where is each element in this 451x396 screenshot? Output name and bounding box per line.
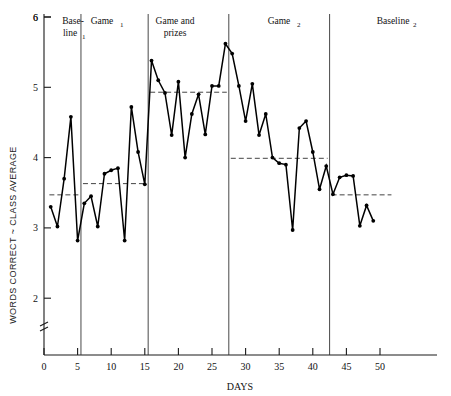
phase-label-game-and-prizes-line2: prizes	[164, 28, 187, 38]
phase-label-baseline-2: Baseline 2	[377, 16, 417, 29]
y-tick-label-2: 2	[33, 293, 38, 304]
y-axis-title: WORDS CORRECT ~ CLASS AVERAGE	[8, 146, 18, 324]
data-point	[365, 204, 369, 208]
phase-label-game-2: Game 2	[268, 16, 301, 29]
phase-label-game-and-prizes-line1: Game and	[156, 16, 195, 26]
data-point	[331, 192, 335, 196]
data-point	[156, 78, 160, 82]
data-point	[264, 112, 268, 116]
data-point	[291, 228, 295, 232]
data-point	[224, 42, 228, 46]
chart-container: 234566 05101520253035404550 WORDS CORREC…	[0, 0, 451, 396]
data-point	[96, 225, 100, 229]
data-series-line	[51, 44, 374, 241]
data-point	[183, 156, 187, 160]
data-point	[338, 175, 342, 179]
phase-label-game-1-main: Game	[91, 16, 114, 26]
data-point	[62, 177, 66, 181]
data-point	[190, 112, 194, 116]
data-point	[177, 80, 181, 84]
data-point	[371, 219, 375, 223]
x-tick-label-25: 25	[207, 361, 217, 372]
x-tick-label-40: 40	[308, 361, 318, 372]
data-point	[271, 156, 275, 160]
data-point	[143, 182, 147, 186]
phase-label-game-2-main: Game	[268, 16, 291, 26]
phase-label-baseline-2-sub: 2	[413, 21, 417, 29]
data-point	[304, 119, 308, 123]
data-point	[49, 205, 53, 209]
y-tick-label-4: 4	[33, 152, 38, 163]
x-tick-label-5: 5	[75, 361, 80, 372]
x-tick-label-0: 0	[42, 361, 47, 372]
data-point	[109, 168, 113, 172]
data-point	[69, 115, 73, 119]
data-point	[136, 150, 140, 154]
data-point	[351, 174, 355, 178]
x-tick-label-30: 30	[241, 361, 251, 372]
y-axis-ticks: 234566	[33, 12, 51, 304]
data-point	[76, 239, 80, 243]
x-tick-label-10: 10	[106, 361, 116, 372]
x-axis-ticks: 05101520253035404550	[42, 348, 386, 372]
data-point	[150, 59, 154, 63]
data-point	[244, 119, 248, 123]
phase-label-game-2-sub: 2	[297, 21, 301, 29]
data-point	[284, 163, 288, 167]
data-point	[345, 173, 349, 177]
x-tick-label-50: 50	[375, 361, 385, 372]
phase-divider-lines	[81, 14, 330, 355]
data-point	[56, 225, 60, 229]
data-point	[358, 224, 362, 228]
data-point	[123, 239, 127, 243]
line-chart: 234566 05101520253035404550 WORDS CORREC…	[0, 0, 451, 396]
data-point	[116, 166, 120, 170]
data-point	[210, 84, 214, 88]
phase-label-baseline-1-sub: 1	[82, 33, 86, 41]
data-point	[237, 84, 241, 88]
phase-label-baseline-1-line1: Base-	[62, 16, 84, 26]
data-point	[324, 164, 328, 168]
phase-label-game-1-sub: 1	[120, 21, 124, 29]
data-point	[82, 201, 86, 205]
y-tick-label-5: 5	[33, 82, 38, 93]
data-point-markers	[49, 42, 375, 243]
data-point	[103, 172, 107, 176]
phase-label-game-1: Game 1	[91, 16, 124, 29]
data-point	[197, 92, 201, 96]
data-point	[277, 161, 281, 165]
data-point	[318, 187, 322, 191]
data-point	[230, 52, 234, 56]
data-point	[217, 84, 221, 88]
data-point	[250, 82, 254, 86]
data-point	[89, 194, 93, 198]
x-tick-label-45: 45	[341, 361, 351, 372]
x-tick-label-15: 15	[140, 361, 150, 372]
x-axis-title: DAYS	[227, 381, 253, 392]
data-point	[163, 91, 167, 95]
y-tick-label-3: 3	[33, 222, 38, 233]
y-tick-label-6: 6	[33, 12, 38, 23]
data-point	[257, 133, 261, 137]
phase-label-game-and-prizes: Game and prizes	[156, 16, 195, 38]
x-tick-label-20: 20	[173, 361, 183, 372]
data-point	[311, 150, 315, 154]
x-tick-label-35: 35	[274, 361, 284, 372]
data-point	[129, 105, 133, 109]
phase-label-baseline-1-line2: line	[63, 28, 77, 38]
data-point	[203, 133, 207, 137]
phase-mean-lines	[49, 92, 391, 195]
phase-label-baseline-2-main: Baseline	[377, 16, 410, 26]
data-point	[170, 133, 174, 137]
data-point	[297, 126, 301, 130]
phase-label-baseline-1: Base- line 1	[62, 16, 86, 41]
